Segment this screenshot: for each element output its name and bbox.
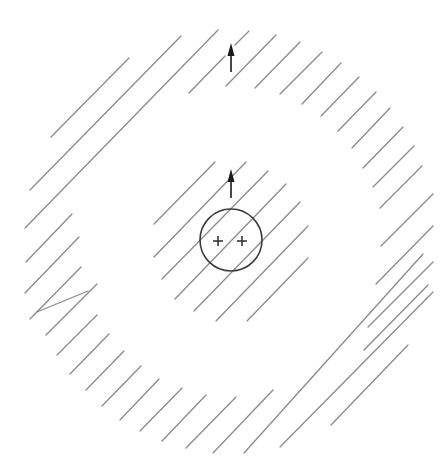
hatch-line (235, 31, 249, 45)
hatch-line (280, 52, 322, 94)
hatch-line (154, 162, 215, 224)
inner-arrow-icon (228, 169, 235, 198)
hatch-line (213, 390, 273, 453)
hatch-line (25, 237, 79, 293)
outer-hatched-ring (25, 30, 433, 453)
hatch-line (321, 77, 359, 116)
conductor-shell (200, 209, 262, 271)
physics-diagram (0, 0, 448, 467)
hatch-line (302, 63, 341, 104)
hatch-line (175, 184, 286, 299)
hatch-line (186, 397, 236, 448)
hatch-line (25, 30, 218, 228)
hatch-line (338, 92, 376, 131)
hatch-line (30, 36, 181, 190)
hatch-line (120, 379, 159, 420)
hatch-line (102, 366, 141, 406)
hatch-line (352, 108, 390, 148)
hatch-line (368, 262, 433, 327)
hatch-line (226, 35, 276, 86)
outer-arrow-icon (228, 43, 235, 72)
hatch-line (140, 388, 182, 431)
hatch-line (381, 194, 433, 246)
positive-charge (213, 236, 223, 246)
hatch-line (57, 315, 97, 355)
hatch-line (70, 334, 109, 374)
hatch-line (86, 351, 124, 390)
hatch-line (363, 127, 403, 168)
positive-charge (237, 236, 247, 246)
hatch-line (247, 258, 308, 321)
hatch-line (189, 56, 225, 93)
hatch-line (26, 214, 72, 262)
hatch-line (46, 284, 97, 335)
hatch-line (364, 285, 428, 350)
hatch-line (380, 166, 422, 208)
hatch-line (51, 58, 129, 137)
hatch-line (280, 292, 433, 447)
